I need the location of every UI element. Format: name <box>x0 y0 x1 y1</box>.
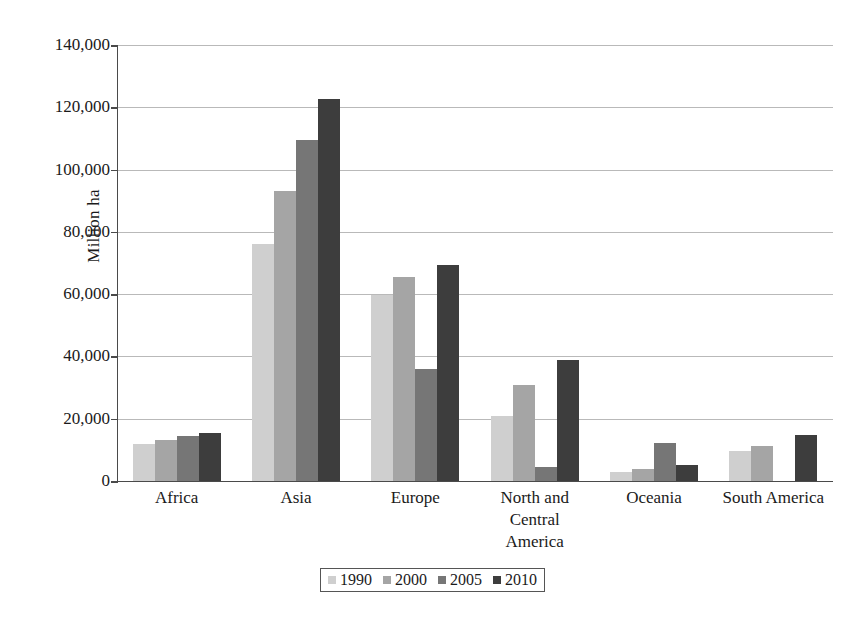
legend-label: 1990 <box>340 572 372 588</box>
y-axis-tick-label: 0 <box>0 472 110 489</box>
bar <box>296 140 318 481</box>
y-axis-tick-label: 100,000 <box>0 161 110 178</box>
legend-label: 2000 <box>395 572 427 588</box>
y-axis-tick-label: 60,000 <box>0 285 110 302</box>
legend-swatch-icon <box>383 576 391 584</box>
legend-item[interactable]: 2005 <box>438 572 482 588</box>
bar-group <box>729 45 817 481</box>
bar <box>491 416 513 481</box>
bar <box>535 467 557 481</box>
bar-group <box>491 45 579 481</box>
bar <box>318 99 340 481</box>
y-axis-tick-labels: 020,00040,00060,00080,000100,000120,0001… <box>0 0 110 625</box>
legend-item[interactable]: 1990 <box>328 572 372 588</box>
bar <box>557 360 579 481</box>
bar <box>437 265 459 481</box>
bar <box>513 385 535 481</box>
bar <box>632 469 654 481</box>
bar-chart: Million ha 020,00040,00060,00080,000100,… <box>0 0 864 625</box>
y-axis-tick-label: 140,000 <box>0 36 110 53</box>
bar <box>274 191 296 481</box>
bar-groups <box>117 45 833 481</box>
y-axis-tick-label: 120,000 <box>0 98 110 115</box>
legend-label: 2010 <box>505 572 537 588</box>
bar <box>252 244 274 481</box>
bar <box>654 443 676 481</box>
y-axis-tick-label: 20,000 <box>0 410 110 427</box>
bar <box>751 446 773 481</box>
legend-label: 2005 <box>450 572 482 588</box>
bar <box>415 369 437 481</box>
bar-group <box>133 45 221 481</box>
bar <box>371 295 393 481</box>
legend-item[interactable]: 2010 <box>493 572 537 588</box>
legend-swatch-icon <box>493 576 501 584</box>
bar <box>155 440 177 481</box>
legend-swatch-icon <box>328 576 336 584</box>
bar <box>177 436 199 481</box>
legend-swatch-icon <box>438 576 446 584</box>
legend-item[interactable]: 2000 <box>383 572 427 588</box>
y-axis-tick-label: 40,000 <box>0 347 110 364</box>
bar <box>199 433 221 481</box>
bar <box>610 472 632 481</box>
bar <box>133 444 155 481</box>
y-axis-tick-label: 80,000 <box>0 223 110 240</box>
bar-group <box>371 45 459 481</box>
bar-group <box>252 45 340 481</box>
x-axis-category-labels: AfricaAsiaEuropeNorth and Central Americ… <box>117 487 833 567</box>
bar <box>795 435 817 481</box>
bar <box>393 277 415 481</box>
chart-legend: 1990200020052010 <box>320 568 545 592</box>
category-label: South America <box>693 487 853 509</box>
bar-group <box>610 45 698 481</box>
bar <box>729 451 751 481</box>
bar <box>676 465 698 481</box>
